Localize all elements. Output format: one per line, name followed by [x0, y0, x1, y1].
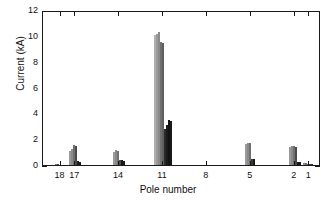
- bar: [253, 159, 255, 165]
- x-tick-mark: [308, 11, 309, 16]
- x-tick-mark: [206, 11, 207, 16]
- bar-series: [43, 12, 319, 165]
- y-tick-label: 4: [33, 109, 38, 118]
- y-tick-label: 2: [33, 135, 38, 144]
- x-tick-mark: [294, 11, 295, 16]
- x-axis-title: Pole number: [0, 184, 336, 195]
- y-axis-title: Current (kA): [15, 16, 26, 112]
- y-tick-label: 0: [33, 161, 38, 170]
- bar: [79, 162, 81, 165]
- x-tick-label: 11: [150, 170, 174, 180]
- y-tick-label: 10: [28, 32, 38, 41]
- x-tick-mark: [250, 161, 251, 166]
- x-tick-mark: [162, 161, 163, 166]
- y-tick-label: 12: [28, 6, 38, 15]
- bar: [170, 121, 172, 165]
- x-tick-label: 5: [238, 170, 262, 180]
- x-tick-mark: [60, 11, 61, 16]
- bar: [123, 161, 125, 165]
- y-tick-label: 6: [33, 84, 38, 93]
- x-tick-mark: [74, 11, 75, 16]
- x-tick-mark: [162, 11, 163, 16]
- y-tick-mark: [315, 166, 320, 167]
- x-tick-mark: [294, 161, 295, 166]
- plot-area: [42, 11, 320, 166]
- bar: [311, 164, 313, 165]
- x-tick-mark: [74, 161, 75, 166]
- x-tick-mark: [118, 11, 119, 16]
- y-tick-mark: [42, 166, 47, 167]
- x-tick-mark: [60, 161, 61, 166]
- x-tick-mark: [250, 11, 251, 16]
- y-tick-label: 8: [33, 58, 38, 67]
- x-tick-mark: [118, 161, 119, 166]
- bar: [299, 162, 301, 165]
- x-tick-label: 14: [106, 170, 130, 180]
- x-tick-label: 17: [62, 170, 86, 180]
- x-tick-label: 8: [194, 170, 218, 180]
- x-tick-label: 1: [296, 170, 320, 180]
- figure-canvas: Current (kA) 024681012 181714118521 Pole…: [0, 0, 336, 203]
- x-tick-mark: [308, 161, 309, 166]
- x-tick-mark: [206, 161, 207, 166]
